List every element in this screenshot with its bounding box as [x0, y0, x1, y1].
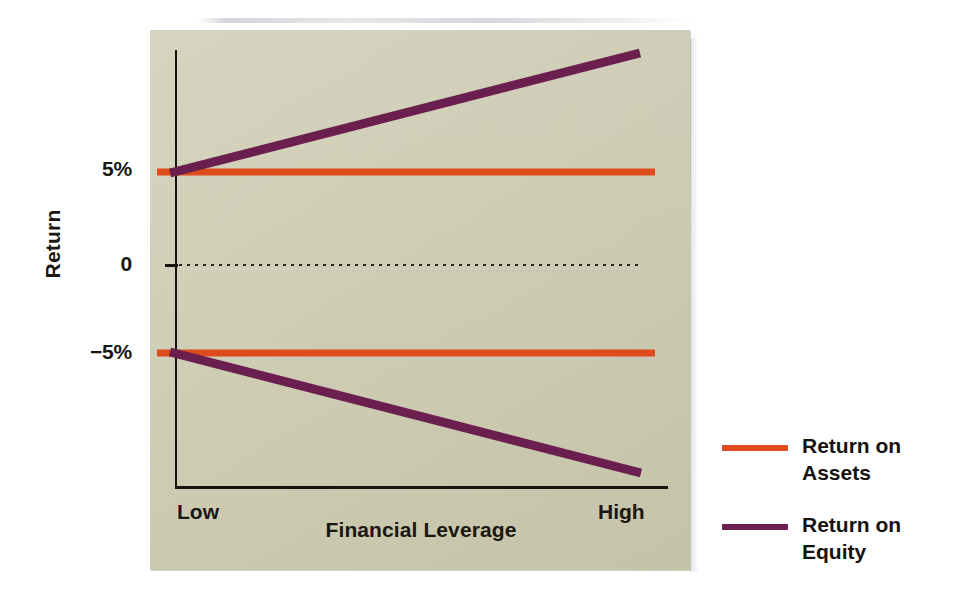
y-axis-line — [175, 50, 177, 489]
y-axis-tick-label-neg5pct: −5% — [40, 340, 132, 364]
legend-swatch-return-on-equity — [722, 524, 788, 530]
y-axis-zero-tick — [165, 264, 178, 267]
chart-legend: Return on Assets Return on Equity — [722, 432, 962, 589]
legend-item-return-on-assets: Return on Assets — [722, 432, 962, 487]
zero-reference-dotted-line — [179, 264, 641, 266]
legend-swatch-return-on-assets — [722, 445, 788, 451]
legend-item-return-on-equity: Return on Equity — [722, 511, 962, 566]
y-axis-tick-label-5pct: 5% — [40, 157, 132, 181]
plot-panel-background — [150, 30, 690, 570]
legend-label-return-on-equity: Return on Equity — [802, 511, 942, 566]
legend-label-return-on-assets: Return on Assets — [802, 432, 942, 487]
x-axis-tick-label-low: Low — [177, 500, 219, 524]
panel-drop-shadow — [690, 38, 699, 572]
chart-figure: 5% 0 −5% Return Low High Financial Lever… — [0, 0, 973, 615]
scan-artifact — [197, 18, 694, 23]
x-axis-tick-label-high: High — [598, 500, 645, 524]
x-axis-line — [175, 486, 668, 489]
y-axis-title: Return — [41, 184, 65, 304]
x-axis-title: Financial Leverage — [251, 518, 591, 542]
